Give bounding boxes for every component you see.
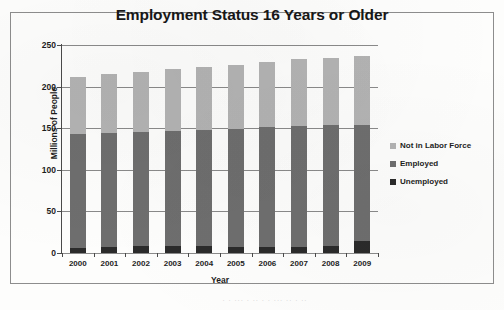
- bar-segment-not-in-labor-force[interactable]: [133, 72, 149, 132]
- x-tick-mark-end: [378, 253, 379, 257]
- bar-segment-unemployed[interactable]: [101, 247, 117, 253]
- x-tick-mark-8: [315, 253, 316, 257]
- x-tick-mark-9: [346, 253, 347, 257]
- legend-swatch-icon: [390, 179, 396, 185]
- bar-segment-employed[interactable]: [70, 134, 86, 248]
- y-tick-mark-50: [57, 211, 61, 212]
- bar-segment-employed[interactable]: [196, 130, 212, 246]
- legend-swatch-icon: [390, 143, 396, 149]
- bar-2006[interactable]: [259, 62, 275, 253]
- legend-item-not-in-labor-force[interactable]: Not in Labor Force: [390, 141, 471, 150]
- bar-segment-employed[interactable]: [354, 125, 370, 241]
- bar-segment-not-in-labor-force[interactable]: [291, 59, 307, 125]
- legend-item-unemployed[interactable]: Unemployed: [390, 177, 471, 186]
- bar-segment-not-in-labor-force[interactable]: [228, 65, 244, 129]
- legend-swatch-icon: [390, 161, 396, 167]
- x-tick-mark-3: [157, 253, 158, 257]
- x-tick-label-2003: 2003: [164, 259, 182, 268]
- x-tick-mark-1: [94, 253, 95, 257]
- bar-2004[interactable]: [196, 67, 212, 253]
- chart-legend: Not in Labor ForceEmployedUnemployed: [390, 141, 471, 195]
- bar-2005[interactable]: [228, 65, 244, 253]
- x-tick-label-2007: 2007: [290, 259, 308, 268]
- bar-2003[interactable]: [165, 69, 181, 253]
- bar-segment-unemployed[interactable]: [291, 247, 307, 253]
- x-tick-mark-6: [252, 253, 253, 257]
- bar-2001[interactable]: [101, 74, 117, 253]
- bar-segment-unemployed[interactable]: [165, 246, 181, 253]
- plot-area: [62, 45, 378, 253]
- x-tick-mark-5: [220, 253, 221, 257]
- x-tick-label-2006: 2006: [258, 259, 276, 268]
- bar-segment-unemployed[interactable]: [323, 246, 339, 253]
- x-tick-mark-7: [283, 253, 284, 257]
- x-tick-mark-4: [188, 253, 189, 257]
- x-tick-label-2009: 2009: [353, 259, 371, 268]
- y-tick-mark-0: [57, 253, 61, 254]
- y-tick-label-0: 0: [51, 248, 56, 258]
- bar-2008[interactable]: [323, 58, 339, 254]
- gridline-250: [62, 45, 378, 46]
- x-tick-label-2005: 2005: [227, 259, 245, 268]
- bar-segment-unemployed[interactable]: [259, 247, 275, 253]
- bar-segment-not-in-labor-force[interactable]: [259, 62, 275, 127]
- bar-segment-not-in-labor-force[interactable]: [354, 56, 370, 125]
- x-tick-label-2008: 2008: [322, 259, 340, 268]
- bar-segment-not-in-labor-force[interactable]: [323, 58, 339, 125]
- chart-title: Employment Status 16 Years or Older: [0, 6, 504, 24]
- y-tick-mark-100: [57, 170, 61, 171]
- bar-segment-not-in-labor-force[interactable]: [196, 67, 212, 131]
- bar-segment-employed[interactable]: [101, 133, 117, 247]
- bar-segment-unemployed[interactable]: [196, 246, 212, 253]
- bar-2007[interactable]: [291, 59, 307, 253]
- legend-item-employed[interactable]: Employed: [390, 159, 471, 168]
- bar-segment-employed[interactable]: [165, 131, 181, 246]
- legend-label: Employed: [400, 159, 438, 168]
- bar-segment-not-in-labor-force[interactable]: [165, 69, 181, 131]
- y-tick-label-50: 50: [47, 206, 56, 216]
- bar-segment-unemployed[interactable]: [228, 247, 244, 253]
- bar-segment-not-in-labor-force[interactable]: [101, 74, 117, 133]
- bar-segment-unemployed[interactable]: [133, 246, 149, 253]
- y-tick-mark-150: [57, 128, 61, 129]
- bar-segment-unemployed[interactable]: [70, 248, 86, 253]
- x-tick-label-2001: 2001: [100, 259, 118, 268]
- y-tick-mark-200: [57, 87, 61, 88]
- legend-label: Unemployed: [400, 177, 448, 186]
- bar-segment-employed[interactable]: [133, 132, 149, 246]
- x-tick-label-2004: 2004: [195, 259, 213, 268]
- x-tick-label-2002: 2002: [132, 259, 150, 268]
- x-tick-mark-2: [125, 253, 126, 257]
- x-tick-label-2000: 2000: [69, 259, 87, 268]
- page-bleedthrough-text: · · ··· · ·· · · ··· ·· · ··: [150, 297, 380, 304]
- bar-segment-unemployed[interactable]: [354, 241, 370, 253]
- bar-segment-employed[interactable]: [291, 126, 307, 247]
- bar-2009[interactable]: [354, 56, 370, 253]
- bar-segment-employed[interactable]: [259, 127, 275, 247]
- bar-segment-employed[interactable]: [228, 129, 244, 247]
- bar-2000[interactable]: [70, 77, 86, 253]
- bar-segment-employed[interactable]: [323, 125, 339, 246]
- bar-2002[interactable]: [133, 72, 149, 253]
- x-axis-title: Year: [62, 275, 378, 285]
- bar-segment-not-in-labor-force[interactable]: [70, 77, 86, 135]
- y-tick-label-250: 250: [42, 40, 56, 50]
- y-axis-title: Millions of People: [49, 63, 59, 183]
- y-tick-mark-250: [57, 45, 61, 46]
- x-tick-mark-0: [62, 253, 63, 257]
- legend-label: Not in Labor Force: [400, 141, 471, 150]
